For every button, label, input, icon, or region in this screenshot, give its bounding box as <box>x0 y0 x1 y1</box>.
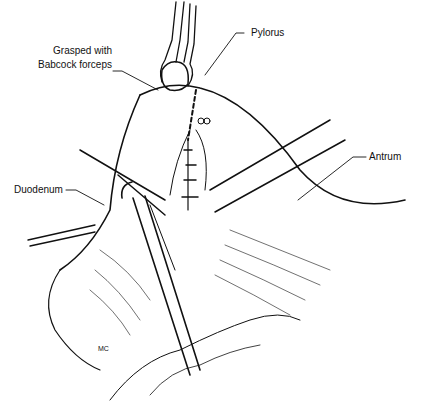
surgical-illustration: Grasped with Babcock forceps Pylorus Ant… <box>0 0 425 406</box>
artist-signature: MC <box>98 343 109 355</box>
label-duodenum: Duodenum <box>14 184 63 196</box>
label-antrum: Antrum <box>369 151 401 163</box>
label-grasped-with: Grasped with <box>22 45 112 57</box>
label-babcock-forceps: Babcock forceps <box>12 59 112 71</box>
label-pylorus: Pylorus <box>251 27 284 39</box>
